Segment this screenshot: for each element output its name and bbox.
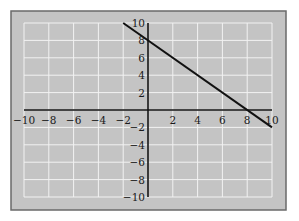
x-tick-label: 2 <box>169 114 176 126</box>
y-tick-label: −2 <box>130 121 145 133</box>
x-tick-label: 8 <box>244 114 251 126</box>
y-tick-label: 4 <box>138 69 145 81</box>
x-tick-label: −4 <box>91 114 107 126</box>
x-tick-label: 10 <box>265 114 278 126</box>
x-tick-label: 6 <box>219 114 226 126</box>
y-tick-label: 8 <box>138 34 145 46</box>
y-tick-label: 6 <box>138 52 145 64</box>
x-tick-label: 4 <box>194 114 201 126</box>
y-tick-label: 2 <box>138 87 145 99</box>
y-tick-label: 10 <box>132 17 145 29</box>
y-tick-label: −8 <box>130 174 145 186</box>
x-tick-label: −10 <box>13 114 35 126</box>
line-graph: −10−8−6−4−2246810 108642−2−4−6−8−10 <box>0 0 299 221</box>
y-tick-label: −10 <box>123 191 145 203</box>
x-tick-label: −8 <box>41 114 56 126</box>
x-tick-label: −6 <box>66 114 82 126</box>
y-tick-label: −6 <box>130 156 146 168</box>
y-tick-label: −4 <box>130 139 146 151</box>
